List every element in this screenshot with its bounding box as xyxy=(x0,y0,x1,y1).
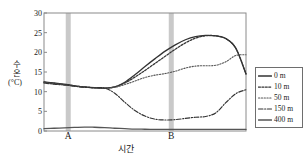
legend-swatch-400m xyxy=(258,115,272,125)
legend-item: 150 m xyxy=(258,103,300,114)
x-annotation-label-a: A xyxy=(65,131,72,141)
series-line-400m xyxy=(44,127,246,129)
legend-label: 10 m xyxy=(274,82,289,91)
series-line-10m xyxy=(44,35,246,88)
legend-label: 0 m xyxy=(274,71,285,80)
legend-item: 50 m xyxy=(258,92,300,103)
legend-label: 150 m xyxy=(274,104,293,113)
legend-label: 50 m xyxy=(274,93,289,102)
legend-swatch-150m xyxy=(258,104,272,114)
series-line-150m xyxy=(44,83,246,120)
legend-item: 400 m xyxy=(258,114,300,125)
chart-figure: 수온 (°C) 30 25 20 15 10 5 0 AB 시간 0 m10 m… xyxy=(0,0,305,158)
legend: 0 m10 m50 m150 m400 m xyxy=(255,67,303,128)
annotation-band-a xyxy=(66,13,71,131)
legend-item: 10 m xyxy=(258,81,300,92)
legend-swatch-50m xyxy=(258,93,272,103)
legend-swatch-10m xyxy=(258,82,272,92)
data-series-group xyxy=(44,35,246,129)
x-axis-label: 시간 xyxy=(0,142,252,155)
series-line-50m xyxy=(44,55,246,88)
legend-label: 400 m xyxy=(274,115,293,124)
legend-swatch-0m xyxy=(258,71,272,81)
x-annotation-label-b: B xyxy=(168,131,174,141)
annotation-bands xyxy=(66,13,174,131)
series-line-0m xyxy=(44,35,246,88)
legend-item: 0 m xyxy=(258,70,300,81)
